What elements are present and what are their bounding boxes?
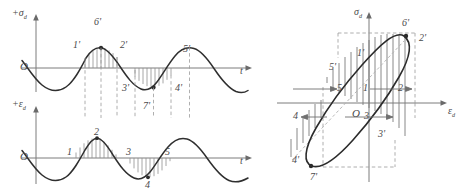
loop-y-axis-label: σd	[354, 7, 362, 19]
strain-wave-panel	[22, 106, 252, 184]
strain-y-axis-label: +εd	[12, 99, 26, 111]
stress-point-7p: 7'	[143, 101, 150, 111]
stress-y-axis-arrowhead	[33, 14, 39, 21]
stress-y-axis-label: +σd	[12, 8, 27, 20]
dynamic-stress-strain-figure: +σd O t 1' 6' 2' 3' 7' 4' 5' +εd O t 1 2…	[0, 0, 466, 195]
loop-point-4p: 4'	[292, 155, 299, 165]
loop-lower-tip-marker	[309, 164, 313, 168]
loop-y-axis-arrowhead	[366, 12, 372, 19]
loop-point-3p: 3'	[378, 129, 385, 139]
strain-point-4: 4	[145, 180, 150, 190]
stress-point-2p: 2'	[120, 40, 127, 50]
strain-origin-label: O	[20, 151, 28, 162]
loop-point-6p: 6'	[402, 18, 409, 28]
stress-x-axis-label: t	[240, 66, 243, 76]
stress-point-6p: 6'	[94, 17, 101, 27]
strain-point-3: 3	[126, 147, 131, 157]
loop-point-1: 1	[363, 83, 368, 93]
figure-canvas	[0, 0, 466, 195]
stress-point-4p: 4'	[175, 83, 182, 93]
loop-point-4: 4	[293, 111, 298, 121]
loop-point-5: 5	[337, 83, 342, 93]
strain-waveform	[22, 138, 248, 182]
stress-point-5p: 5'	[183, 44, 190, 54]
stress-origin-label: O	[20, 61, 28, 72]
strain-x-axis-label: t	[240, 156, 243, 166]
loop-point-2p: 2'	[419, 33, 426, 43]
stress-x-axis-arrowhead	[246, 65, 253, 70]
stress-trough-hatch	[135, 68, 171, 87]
loop-upper-tip-marker	[404, 34, 408, 38]
strain-point-5: 5	[165, 147, 170, 157]
loop-point-1p: 1'	[357, 48, 364, 58]
strain-x-axis-arrowhead	[246, 155, 253, 160]
stress-point-3p: 3'	[122, 83, 129, 93]
loop-origin-label: O	[352, 108, 360, 119]
loop-x-axis-label: εd	[448, 106, 455, 118]
strain-trough-hatch	[130, 158, 170, 177]
loop-point-3: 3	[364, 111, 369, 121]
strain-point-2: 2	[94, 127, 99, 137]
loop-point-5p: 5'	[329, 62, 336, 72]
stress-wave-panel	[22, 14, 252, 118]
strain-point-1: 1	[67, 147, 72, 157]
stress-point-1p: 1'	[73, 40, 80, 50]
loop-point-2: 2	[398, 83, 403, 93]
loop-x-axis-arrowhead	[441, 100, 448, 105]
loop-point-7p: 7'	[310, 172, 317, 182]
strain-y-axis-arrowhead	[33, 106, 39, 113]
